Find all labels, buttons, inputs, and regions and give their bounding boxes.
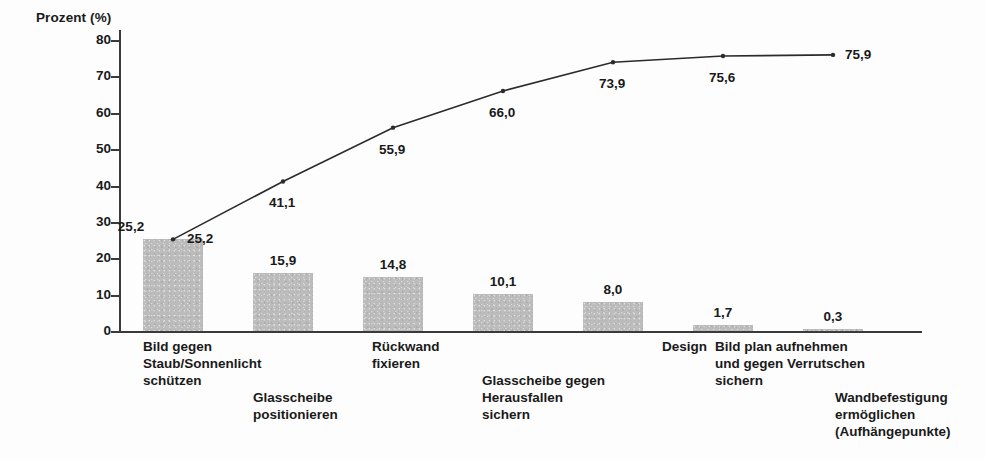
cumulative-value-label: 41,1 xyxy=(269,195,295,210)
y-tick-mark xyxy=(111,76,120,78)
y-tick-label: 20 xyxy=(51,250,111,265)
y-tick-label: 60 xyxy=(51,105,111,120)
y-tick-label: 0 xyxy=(51,323,111,338)
cumulative-markers xyxy=(171,53,835,242)
cumulative-value-label: 25,2 xyxy=(187,231,213,246)
category-label: Glasscheibe positionieren xyxy=(253,389,338,423)
bar xyxy=(143,239,203,331)
category-label: Rückwand fixieren xyxy=(372,338,440,372)
cumulative-value-label: 73,9 xyxy=(599,76,625,91)
cumulative-value-label: 55,9 xyxy=(379,142,405,157)
cumulative-marker xyxy=(391,125,395,129)
bar-value-label: 15,9 xyxy=(241,253,325,268)
y-axis-title: Prozent (%) xyxy=(36,10,111,25)
cumulative-marker xyxy=(501,89,505,93)
y-tick-mark xyxy=(111,331,120,333)
bar xyxy=(583,302,643,331)
cumulative-value-label: 75,9 xyxy=(845,47,871,62)
y-tick-mark xyxy=(111,295,120,297)
bar xyxy=(693,325,753,331)
bar-value-label: 10,1 xyxy=(461,274,545,289)
cumulative-value-label: 66,0 xyxy=(489,105,515,120)
bar-value-label: 25,2 xyxy=(101,219,161,234)
y-tick-label: 70 xyxy=(51,68,111,83)
cumulative-marker xyxy=(611,60,615,64)
bar xyxy=(803,329,863,331)
bar-value-label: 1,7 xyxy=(681,305,765,320)
y-tick-label: 80 xyxy=(51,32,111,47)
y-tick-mark xyxy=(111,258,120,260)
y-tick-mark xyxy=(111,186,120,188)
bar xyxy=(473,294,533,331)
y-tick-label: 50 xyxy=(51,141,111,156)
bar xyxy=(253,273,313,331)
bar-value-label: 0,3 xyxy=(791,309,875,324)
bar xyxy=(363,277,423,331)
cumulative-value-label: 75,6 xyxy=(709,70,735,85)
category-label: Bild gegen Staub/Sonnenlicht schützen xyxy=(143,338,262,389)
cumulative-marker xyxy=(281,179,285,183)
pareto-chart-figure: Prozent (%) 01020304050607080 25,215,914… xyxy=(0,0,985,460)
category-label: Wandbefestigung ermöglichen (Aufhängepun… xyxy=(835,389,951,440)
category-label: Design xyxy=(662,338,707,355)
x-axis-line xyxy=(119,331,922,333)
cumulative-marker xyxy=(721,54,725,58)
category-label: Bild plan aufnehmen und gegen Verrutsche… xyxy=(715,338,865,389)
category-label: Glasscheibe gegen Herausfallen sichern xyxy=(482,372,605,423)
bar-value-label: 8,0 xyxy=(571,282,655,297)
y-tick-label: 10 xyxy=(51,287,111,302)
y-tick-mark xyxy=(111,113,120,115)
y-tick-mark xyxy=(111,149,120,151)
cumulative-marker xyxy=(831,53,835,57)
y-tick-mark xyxy=(111,40,120,42)
bar-value-label: 14,8 xyxy=(351,257,435,272)
y-tick-label: 40 xyxy=(51,178,111,193)
